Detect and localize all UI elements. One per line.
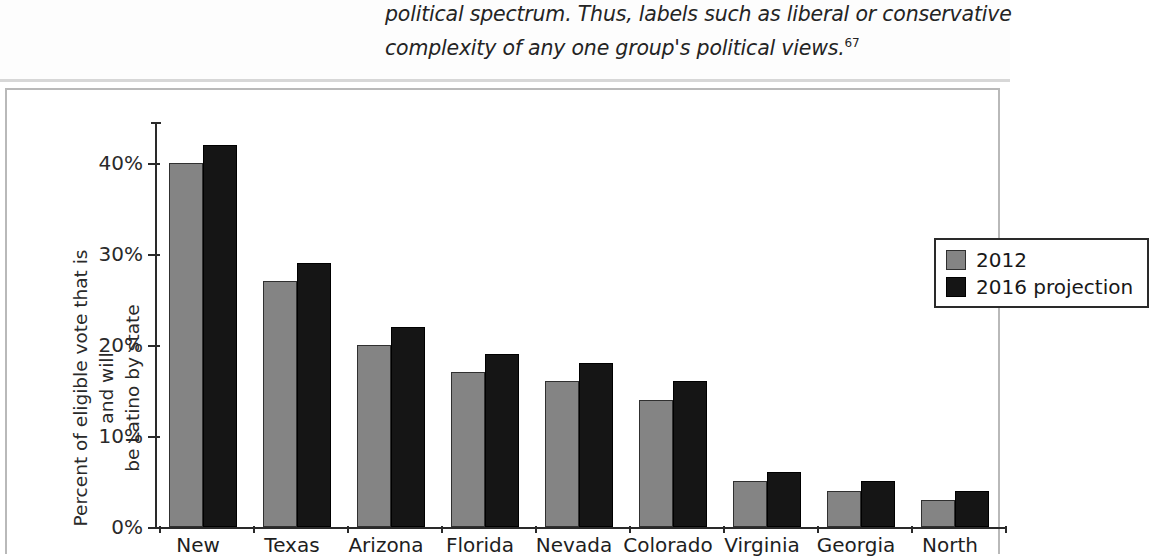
bar-arizona-2012[interactable]: [357, 345, 391, 527]
bar-group: [817, 118, 911, 527]
bar-nevada-2016-projection[interactable]: [579, 363, 613, 527]
x-axis-label-georgia: Georgia: [808, 533, 904, 557]
bar-colorado-2012[interactable]: [639, 400, 673, 527]
x-axis-label-north: North: [902, 533, 998, 557]
x-axis-label-virginia: Virginia: [714, 533, 810, 557]
legend-label: 2016 projection: [976, 275, 1133, 299]
bar-texas-2016-projection[interactable]: [297, 263, 331, 527]
x-axis-label-florida: Florida: [432, 533, 528, 557]
bar-group: [253, 118, 347, 527]
bar-virginia-2016-projection[interactable]: [767, 472, 801, 527]
legend-label: 2012: [976, 248, 1027, 272]
y-tick-label: 10%: [99, 424, 143, 448]
bar-group: [347, 118, 441, 527]
chart-legend: 2012 2016 projection: [934, 238, 1149, 308]
bar-texas-2012[interactable]: [263, 281, 297, 527]
bar-groups: [157, 118, 1005, 527]
bar-georgia-2016-projection[interactable]: [861, 481, 895, 527]
bar-new-2012[interactable]: [169, 163, 203, 527]
body-text-line-1: political spectrum. Thus, labels such as…: [385, 2, 1012, 26]
legend-swatch-icon: [946, 250, 966, 270]
x-tick-mark: [911, 526, 913, 533]
bar-chart: Percent of eligible vote that is and wil…: [150, 118, 1005, 554]
footnote-marker: 67: [845, 36, 860, 50]
bar-new-2016-projection[interactable]: [203, 145, 237, 527]
legend-swatch-icon: [946, 277, 966, 297]
bar-nevada-2012[interactable]: [545, 381, 579, 527]
x-axis-label-colorado: Colorado: [620, 533, 716, 557]
x-axis-label-nevada: Nevada: [526, 533, 622, 557]
bar-group: [629, 118, 723, 527]
bar-arizona-2016-projection[interactable]: [391, 327, 425, 527]
x-tick-mark: [629, 526, 631, 533]
x-tick-mark: [535, 526, 537, 533]
bar-georgia-2012[interactable]: [827, 491, 861, 527]
x-axis-label-new: New: [150, 533, 246, 557]
x-tick-mark: [441, 526, 443, 533]
legend-item-2012: 2012: [946, 246, 1133, 273]
x-tick-mark: [817, 526, 819, 533]
y-tick-label: 0%: [111, 515, 143, 539]
bar-virginia-2012[interactable]: [733, 481, 767, 527]
horizontal-rule: [0, 79, 1010, 82]
x-axis-label-arizona: Arizona: [338, 533, 434, 557]
bar-group: [535, 118, 629, 527]
x-tick-mark: [723, 526, 725, 533]
bar-group: [441, 118, 535, 527]
legend-item-2016-projection: 2016 projection: [946, 273, 1133, 300]
x-tick-mark: [347, 526, 349, 533]
x-axis-line: [155, 527, 1005, 529]
y-tick-label: 40%: [99, 151, 143, 175]
bar-north-2016-projection[interactable]: [955, 491, 989, 527]
y-tick-label: 30%: [99, 242, 143, 266]
bar-north-2012[interactable]: [921, 500, 955, 527]
bar-group: [911, 118, 1005, 527]
x-tick-mark: [159, 526, 161, 533]
bar-group: [723, 118, 817, 527]
bar-group: [159, 118, 253, 527]
x-tick-mark: [1005, 526, 1007, 533]
body-text-line-2: complexity of any one group's political …: [385, 36, 859, 60]
page-body-text: political spectrum. Thus, labels such as…: [0, 0, 1010, 80]
y-tick-label: 20%: [99, 333, 143, 357]
body-text-line-2-text: complexity of any one group's political …: [385, 36, 845, 60]
bar-florida-2012[interactable]: [451, 372, 485, 527]
bar-colorado-2016-projection[interactable]: [673, 381, 707, 527]
bar-florida-2016-projection[interactable]: [485, 354, 519, 527]
x-axis-label-texas: Texas: [244, 533, 340, 557]
x-tick-mark: [253, 526, 255, 533]
